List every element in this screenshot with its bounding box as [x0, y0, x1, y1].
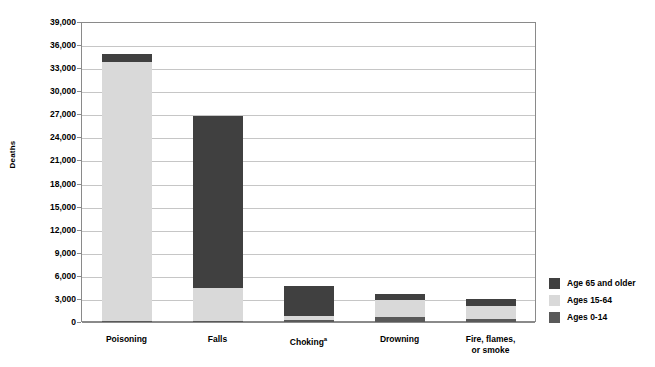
y-axis-tick-mark — [77, 137, 81, 138]
legend-label: Age 65 and older — [567, 279, 636, 288]
y-axis-tick-mark — [77, 253, 81, 254]
gridline — [82, 231, 535, 232]
y-axis-tick-label: 30,000 — [6, 87, 76, 96]
gridline — [82, 161, 535, 162]
y-axis-tick-mark — [77, 45, 81, 46]
y-axis-tick-mark — [77, 299, 81, 300]
stacked-bar-chart: Deaths 39,00036,00033,00030,00027,00024,… — [0, 0, 655, 367]
y-axis-tick-label: 21,000 — [6, 156, 76, 165]
legend-item: Ages 15-64 — [549, 292, 636, 308]
legend-swatch — [549, 295, 560, 306]
gridline — [82, 46, 535, 47]
gridline — [82, 277, 535, 278]
footnote-marker: a — [324, 336, 327, 342]
x-axis-label: Fire, flames, or smoke — [436, 334, 546, 356]
y-axis-tick-mark — [77, 276, 81, 277]
y-axis-tick-mark — [77, 22, 81, 23]
gridline — [82, 322, 535, 323]
y-axis-tick-mark — [77, 91, 81, 92]
gridline — [82, 254, 535, 255]
legend-swatch — [549, 278, 560, 289]
legend-item: Ages 0-14 — [549, 309, 636, 325]
y-axis-tick-mark — [77, 68, 81, 69]
y-axis-tick-mark — [77, 322, 81, 323]
plot-area — [81, 22, 536, 322]
gridline — [82, 138, 535, 139]
y-axis-tick-mark — [77, 114, 81, 115]
chart-legend: Age 65 and olderAges 15-64Ages 0-14 — [549, 275, 636, 326]
legend-item: Age 65 and older — [549, 275, 636, 291]
y-axis-tick-label: 27,000 — [6, 110, 76, 119]
y-axis-tick-label: 39,000 — [6, 18, 76, 27]
gridline — [82, 185, 535, 186]
y-axis-tick-label: 15,000 — [6, 203, 76, 212]
y-axis-tick-label: 3,000 — [6, 295, 76, 304]
y-axis-tick-label: 12,000 — [6, 226, 76, 235]
y-axis-tick-label: 24,000 — [6, 133, 76, 142]
gridline — [82, 300, 535, 301]
y-axis-tick-mark — [77, 207, 81, 208]
y-axis-tick-mark — [77, 230, 81, 231]
y-axis-tick-label: 6,000 — [6, 272, 76, 281]
y-axis-tick-label: 0 — [6, 318, 76, 327]
y-axis-tick-label: 33,000 — [6, 64, 76, 73]
y-axis-tick-mark — [77, 160, 81, 161]
gridline — [82, 92, 535, 93]
y-axis-tick-label: 9,000 — [6, 249, 76, 258]
y-axis-tick-label: 36,000 — [6, 41, 76, 50]
legend-swatch — [549, 312, 560, 323]
gridline — [82, 69, 535, 70]
y-axis-tick-mark — [77, 184, 81, 185]
legend-label: Ages 15-64 — [567, 296, 612, 305]
legend-label: Ages 0-14 — [567, 313, 607, 322]
gridline — [82, 208, 535, 209]
gridline — [82, 115, 535, 116]
y-axis-tick-label: 18,000 — [6, 180, 76, 189]
